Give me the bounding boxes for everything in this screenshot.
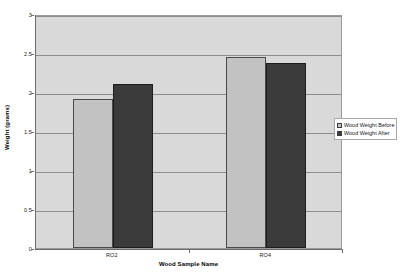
legend-swatch-icon [337,131,342,136]
bar-ro2-before [73,99,113,248]
legend-label: Wood Weight Before [344,122,394,128]
y-tick-mark [31,210,34,211]
y-axis-line [35,15,36,250]
legend-entry: Wood Weight Before [337,121,394,129]
legend-entry: Wood Weight After [337,129,394,137]
y-tick-label: 1 [4,168,32,174]
y-tick-mark [31,15,34,16]
y-tick-label: 0.5 [4,207,32,213]
x-tick-mark [342,250,343,253]
legend-label: Wood Weight After [344,130,390,136]
y-tick-mark [31,249,34,250]
bar-ro4-after [266,63,306,248]
gridline [36,16,341,17]
x-tick-mark [189,250,190,253]
x-tick-label: RO2 [82,252,142,259]
x-tick-label: RO4 [235,252,295,259]
y-tick-label: 3 [4,12,32,18]
bar-ro4-before [226,57,266,248]
y-tick-label: 2.5 [4,51,32,57]
y-axis-title: Weight (grams) [4,93,11,163]
x-axis-title: Wood Sample Name [35,261,342,268]
gridline [36,55,341,56]
y-tick-mark [31,132,34,133]
legend-swatch-icon [337,123,342,128]
y-tick-mark [31,171,34,172]
bar-chart: 00.511.522.53 RO2RO4 Wood Sample Name We… [0,0,411,272]
plot-area [35,15,342,249]
y-tick-label: 0 [4,246,32,252]
y-tick-mark [31,93,34,94]
bar-ro2-after [113,84,153,248]
y-tick-mark [31,54,34,55]
chart-legend: Wood Weight BeforeWood Weight After [334,118,397,140]
